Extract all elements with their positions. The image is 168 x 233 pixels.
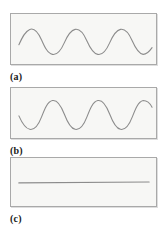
panel-caption-a: (a): [10, 71, 159, 82]
sine-trace-a: [19, 29, 152, 54]
waveform-plot-b: [11, 88, 156, 138]
waveform-plot-c: [11, 158, 156, 206]
plot-panel-a: [10, 13, 157, 65]
figure-root: (a) (b) (c): [0, 0, 168, 233]
panel-caption-c: (c): [10, 213, 159, 224]
panel-caption-b: (b): [10, 145, 159, 156]
panel-group-a: (a): [10, 13, 159, 82]
plot-panel-c: [10, 157, 157, 207]
waveform-plot-a: [11, 14, 156, 64]
flat-trace-c: [19, 182, 149, 183]
panel-group-b: (b): [10, 87, 159, 156]
sine-trace-b: [19, 100, 152, 129]
plot-panel-b: [10, 87, 157, 139]
panel-group-c: (c): [10, 157, 159, 224]
